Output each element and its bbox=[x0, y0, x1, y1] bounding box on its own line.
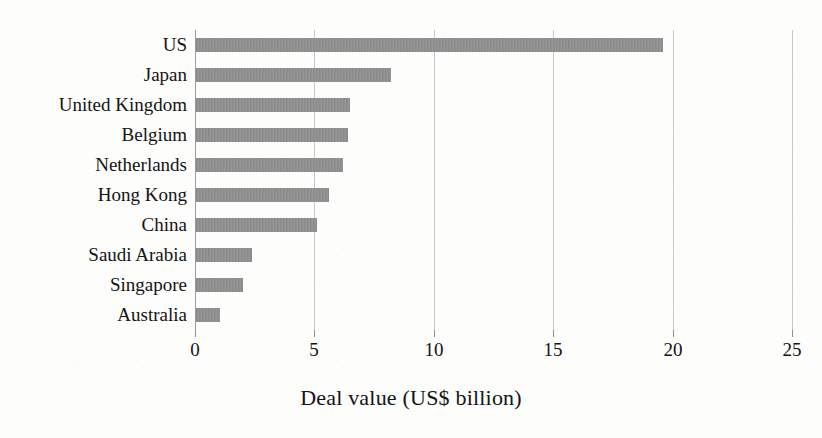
y-axis-label: Singapore bbox=[0, 270, 187, 300]
y-axis-label: US bbox=[0, 30, 187, 60]
bar bbox=[195, 278, 243, 292]
x-axis-tick-label: 5 bbox=[284, 337, 344, 363]
bar bbox=[195, 188, 329, 202]
plot-area bbox=[195, 30, 792, 330]
bar bbox=[195, 248, 252, 262]
x-axis-tick bbox=[792, 330, 793, 337]
x-axis-tick-labels: 0510152025 bbox=[195, 337, 792, 365]
y-axis-label: Australia bbox=[0, 300, 187, 330]
x-axis-tick-label: 25 bbox=[762, 337, 822, 363]
bar-chart-figure: USJapanUnited KingdomBelgiumNetherlandsH… bbox=[0, 0, 822, 438]
y-axis-label: Belgium bbox=[0, 120, 187, 150]
x-axis-tick bbox=[673, 330, 674, 337]
x-axis-tick bbox=[553, 330, 554, 337]
y-axis-label: United Kingdom bbox=[0, 90, 187, 120]
cropped-title-remnant bbox=[0, 0, 822, 9]
gridline bbox=[434, 30, 435, 330]
x-axis-tick-label: 0 bbox=[165, 337, 225, 363]
bar bbox=[195, 308, 220, 322]
x-axis-tick-label: 10 bbox=[404, 337, 464, 363]
bar bbox=[195, 128, 348, 142]
x-axis-tick bbox=[314, 330, 315, 337]
gridline bbox=[553, 30, 554, 330]
y-axis-label: Saudi Arabia bbox=[0, 240, 187, 270]
y-axis-label: China bbox=[0, 210, 187, 240]
x-axis-tick-label: 15 bbox=[523, 337, 583, 363]
gridline bbox=[792, 30, 793, 330]
bar bbox=[195, 38, 663, 52]
bar bbox=[195, 98, 350, 112]
y-axis-label: Netherlands bbox=[0, 150, 187, 180]
bar bbox=[195, 158, 343, 172]
y-axis-category-labels: USJapanUnited KingdomBelgiumNetherlandsH… bbox=[0, 30, 187, 330]
bar bbox=[195, 68, 391, 82]
x-axis-tick bbox=[195, 330, 196, 337]
y-axis-label: Japan bbox=[0, 60, 187, 90]
x-axis-tick bbox=[434, 330, 435, 337]
y-axis-label: Hong Kong bbox=[0, 180, 187, 210]
x-axis-tick-label: 20 bbox=[643, 337, 703, 363]
bar bbox=[195, 218, 317, 232]
x-axis-title: Deal value (US$ billion) bbox=[0, 383, 822, 413]
gridline bbox=[673, 30, 674, 330]
